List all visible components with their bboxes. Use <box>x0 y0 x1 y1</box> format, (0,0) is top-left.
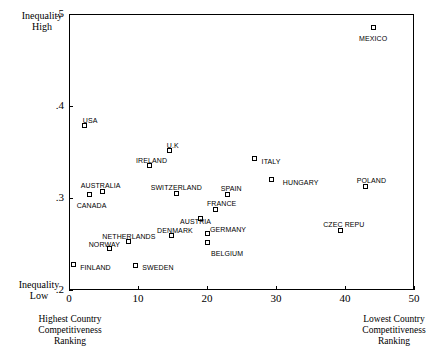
data-point-label: DENMARK <box>157 227 193 235</box>
x-right-line2: Competitiveness <box>348 325 440 336</box>
y-low-line2: Low <box>12 290 66 301</box>
y-tick-label: .3 <box>44 192 64 203</box>
scatter-chart: .5.4.3.2 01020304050 Inequality High Ine… <box>0 0 445 350</box>
data-point-label: SWITZERLAND <box>151 184 202 192</box>
x-left-line3: Ranking <box>24 336 116 347</box>
y-high-line2: High <box>18 21 66 32</box>
x-left-line2: Competitiveness <box>24 325 116 336</box>
data-point-label: POLAND <box>357 177 386 185</box>
plot-area <box>69 14 414 290</box>
data-point-label: SWEDEN <box>142 264 173 272</box>
x-tick-mark <box>345 286 346 290</box>
data-point-label: AUSTRALIA <box>81 182 121 190</box>
data-point-label: GERMANY <box>210 226 246 234</box>
x-tick-label: 20 <box>194 293 220 304</box>
data-point-marker <box>371 25 376 30</box>
y-tick-mark <box>69 14 73 15</box>
data-point-marker <box>71 262 76 267</box>
data-point-label: HUNGARY <box>283 179 319 187</box>
data-point-label: AUSTRIA <box>180 218 211 226</box>
x-tick-label: 10 <box>125 293 151 304</box>
data-point-label: NORWAY <box>89 241 120 249</box>
data-point-marker <box>205 231 210 236</box>
x-right-line1: Lowest Country <box>348 314 440 325</box>
data-point-label: BELGIUM <box>211 250 243 258</box>
x-axis-right-note: Lowest Country Competitiveness Ranking <box>348 314 440 347</box>
y-tick-label: .4 <box>44 100 64 111</box>
data-point-label: NETHERLANDS <box>102 233 155 241</box>
x-axis-left-note: Highest Country Competitiveness Ranking <box>24 314 116 347</box>
y-tick-mark <box>69 198 73 199</box>
x-tick-mark <box>69 286 70 290</box>
x-tick-label: 50 <box>401 293 427 304</box>
y-low-line1: Inequality <box>12 279 66 290</box>
data-point-marker <box>252 156 257 161</box>
y-tick-mark <box>69 290 73 291</box>
x-left-line1: Highest Country <box>24 314 116 325</box>
data-point-label: SPAIN <box>221 185 242 193</box>
data-point-label: U.K <box>167 142 179 150</box>
data-point-label: CZEC REPU <box>323 221 364 229</box>
data-point-marker <box>133 263 138 268</box>
data-point-label: USA <box>83 117 98 125</box>
data-point-label: FRANCE <box>207 200 236 208</box>
y-axis-low-note: Inequality Low <box>12 279 66 301</box>
data-point-marker <box>87 192 92 197</box>
x-tick-mark <box>207 286 208 290</box>
data-point-marker <box>205 240 210 245</box>
data-point-label: ITALY <box>262 158 281 166</box>
x-tick-label: 30 <box>263 293 289 304</box>
data-point-label: FINLAND <box>80 264 111 272</box>
y-high-line1: Inequality <box>18 10 66 21</box>
data-point-label: IRELAND <box>136 157 167 165</box>
y-axis-high-note: Inequality High <box>18 10 66 32</box>
x-tick-mark <box>276 286 277 290</box>
y-tick-mark <box>69 106 73 107</box>
data-point-marker <box>269 177 274 182</box>
x-right-line3: Ranking <box>348 336 440 347</box>
data-point-label: CANADA <box>77 202 107 210</box>
data-point-label: MEXICO <box>359 35 387 43</box>
x-tick-mark <box>138 286 139 290</box>
x-tick-label: 40 <box>332 293 358 304</box>
x-tick-mark <box>414 286 415 290</box>
